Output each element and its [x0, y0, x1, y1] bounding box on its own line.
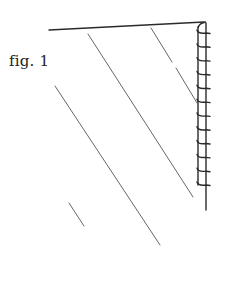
coil-turn — [197, 168, 210, 172]
coil-spring — [197, 22, 210, 210]
coil-turn — [197, 182, 210, 186]
diagram-canvas — [0, 0, 226, 286]
figure-label: fig. 1 — [9, 52, 49, 70]
coil-turn — [197, 85, 210, 89]
coil-turn — [197, 127, 210, 131]
coil-turn — [197, 58, 210, 62]
coil-turn — [197, 154, 210, 158]
left-diagonal — [55, 86, 160, 245]
top-bar — [49, 22, 204, 30]
coil-turn — [197, 44, 210, 48]
coil-turn — [197, 30, 210, 34]
coil-turn — [197, 71, 210, 75]
right-diagonal-lower — [176, 68, 197, 103]
right-diagonal-upper — [151, 28, 172, 62]
short-dash — [69, 203, 84, 226]
diagram-lines — [49, 22, 204, 245]
coil-turn — [197, 113, 210, 117]
middle-diagonal — [88, 34, 193, 197]
coil-turn — [197, 141, 210, 145]
coil-turn — [197, 99, 210, 103]
